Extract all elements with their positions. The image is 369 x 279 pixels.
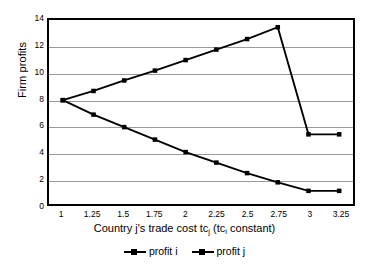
plot-area <box>47 18 355 206</box>
legend-entry[interactable]: profit i <box>124 246 178 257</box>
y-tick-label: 8 <box>28 94 44 103</box>
y-tick-label: 14 <box>28 14 44 23</box>
legend-label: profit j <box>217 246 246 257</box>
data-point-marker <box>245 171 250 176</box>
legend-entry[interactable]: profit j <box>192 246 246 257</box>
legend-label: profit i <box>149 246 178 257</box>
data-point-marker <box>91 112 96 117</box>
series-profit-i <box>61 98 342 193</box>
x-axis-title-middle: (tc <box>210 222 225 234</box>
data-point-marker <box>122 78 127 83</box>
y-tick-label: 2 <box>28 175 44 184</box>
x-axis-title: Country j's trade cost tcj (tci constant… <box>0 222 369 236</box>
chart-legend: profit iprofit j <box>0 246 369 257</box>
data-point-marker <box>61 98 66 103</box>
data-point-marker <box>245 37 250 42</box>
y-tick-label: 10 <box>28 67 44 76</box>
data-point-marker <box>337 189 342 194</box>
data-point-marker <box>183 58 188 63</box>
data-point-marker <box>214 160 219 165</box>
y-tick-label: 6 <box>28 121 44 130</box>
y-tick-label: 12 <box>28 41 44 50</box>
data-point-marker <box>306 132 311 137</box>
data-point-marker <box>275 180 280 185</box>
data-point-marker <box>91 89 96 94</box>
data-point-marker <box>122 125 127 130</box>
legend-marker-icon <box>124 247 146 256</box>
data-point-marker <box>306 189 311 194</box>
plot-series-svg <box>49 20 353 204</box>
data-point-marker <box>337 132 342 137</box>
data-point-marker <box>214 47 219 52</box>
x-axis-title-after: constant) <box>227 222 275 234</box>
series-line <box>63 100 339 191</box>
legend-marker-icon <box>192 247 214 256</box>
y-axis-tick-labels: 02468101214 <box>24 0 44 279</box>
x-axis-tick-labels: 11.251.51.7522.252.52.7533.25 <box>47 209 355 223</box>
x-tick-label: 3.25 <box>321 209 361 219</box>
x-axis-title-before: Country j's trade cost tc <box>94 222 209 234</box>
data-point-marker <box>183 150 188 155</box>
data-point-marker <box>275 25 280 30</box>
y-tick-label: 4 <box>28 148 44 157</box>
series-profit-j <box>61 25 342 137</box>
chart-figure: Firm profits 02468101214 11.251.51.7522.… <box>0 0 369 279</box>
data-point-marker <box>153 137 158 142</box>
data-point-marker <box>153 68 158 73</box>
